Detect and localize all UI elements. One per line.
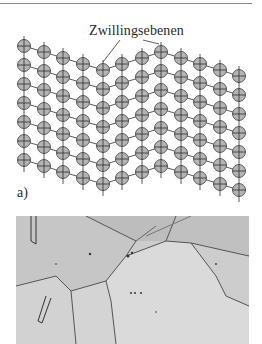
lattice-row-line <box>18 63 245 97</box>
micrograph-svg <box>16 216 249 344</box>
lattice-row-line <box>18 82 245 116</box>
lattice-row-line <box>18 101 245 135</box>
twin-plane-leader-1 <box>103 40 120 62</box>
micrograph-image <box>16 216 249 344</box>
panel-label-a: a) <box>17 185 28 201</box>
lattice-row-line <box>18 44 245 78</box>
twin-plane-leader-2 <box>143 40 159 44</box>
lattice-row-line <box>18 120 245 154</box>
lattice-row-line <box>18 158 245 192</box>
lattice-row-line <box>18 139 245 173</box>
twin-planes-label: Zwillingsebenen <box>89 23 184 39</box>
